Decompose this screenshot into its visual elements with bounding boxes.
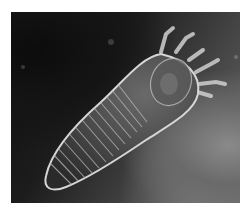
mite-specimen bbox=[11, 12, 240, 203]
micrograph-photo bbox=[11, 12, 240, 203]
